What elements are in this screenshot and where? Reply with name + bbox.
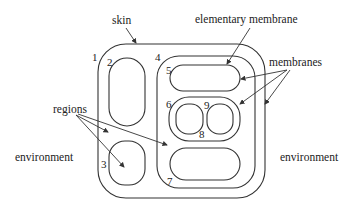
membranes-arrow-4 (240, 70, 287, 104)
skin-label: skin (112, 14, 131, 26)
environment-right-label: environment (280, 151, 339, 163)
membrane-7 (170, 148, 240, 180)
membrane-5 (170, 65, 240, 91)
regions-label: regions (53, 103, 87, 116)
membrane-number-4: 4 (155, 51, 161, 63)
membrane-number-1: 1 (92, 51, 98, 63)
skin-arrow (126, 28, 136, 43)
membrane-number-8: 8 (199, 128, 205, 140)
membrane-9 (207, 104, 233, 134)
membrane-number-3: 3 (101, 158, 107, 170)
membrane-number-2: 2 (107, 56, 113, 68)
membranes-arrow-1 (265, 70, 290, 104)
membrane-diagram: skin elementary membrane membranes regio… (0, 0, 356, 210)
regions-arrow-4 (78, 114, 167, 145)
regions-arrow-1 (76, 115, 108, 132)
membranes-label: membranes (269, 56, 323, 68)
membrane-number-7: 7 (167, 175, 173, 187)
membrane-number-9: 9 (204, 99, 210, 111)
environment-left-label: environment (15, 151, 74, 163)
membrane-2 (109, 58, 145, 126)
elementary-membrane-label: elementary membrane (195, 13, 298, 26)
membrane-3 (109, 141, 145, 185)
membrane-number-6: 6 (166, 98, 172, 110)
membrane-number-5: 5 (166, 64, 172, 76)
